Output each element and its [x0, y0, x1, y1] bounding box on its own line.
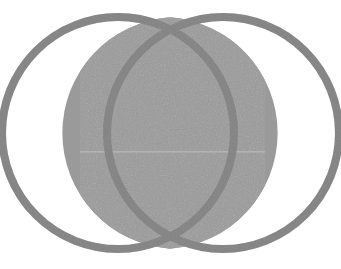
venn-diagram-canvas [0, 0, 341, 269]
venn-diagram-svg [0, 0, 341, 269]
